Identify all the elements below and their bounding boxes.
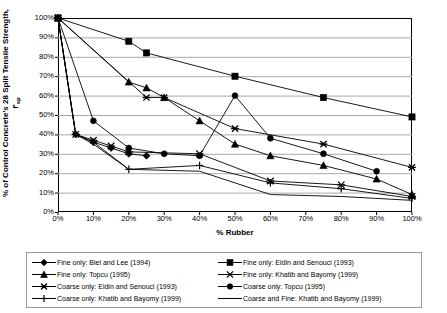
marker-circle [197,153,203,159]
series-1 [55,15,415,120]
legend-marker-triangle-icon [31,269,57,280]
marker-diamond [41,259,48,266]
series-line [58,18,412,196]
x-tick-label: 20% [109,215,149,223]
x-tick-label: 60% [250,215,290,223]
x-axis-label: % Rubber [58,228,412,237]
chart-screenshot: 0%10%20%30%40%50%60%70%80%90%100% 0%10%2… [0,0,447,313]
series-line [58,18,412,198]
marker-triangle [267,152,274,159]
legend-label: Fine only: Eldin and Senouci (1993) [243,258,354,267]
legend-item[interactable]: Coarse and Fine: Khatib and Bayomy (1999… [217,292,417,304]
marker-square [232,73,238,79]
x-tick-label: 0% [38,215,78,223]
chart-area: 0%10%20%30%40%50%60%70%80%90%100% 0%10%2… [0,0,447,248]
marker-triangle [196,117,203,124]
legend-marker-x-bar-icon [217,269,243,280]
marker-circle [161,151,167,157]
legend-item[interactable]: Coarse only: Khatib and Bayomy (1999) [31,292,217,304]
marker-plus-bar [338,185,345,192]
marker-circle [227,283,233,289]
marker-x-bar [226,271,234,277]
series-line [58,18,412,195]
marker-circle [232,93,238,99]
legend-label: Coarse only: Eldin and Senouci (1993) [57,282,177,291]
marker-asterisk [40,283,47,289]
marker-square [143,50,149,56]
marker-circle [126,145,132,151]
x-tick-label: 40% [180,215,220,223]
legend-label: Coarse and Fine: Khatib and Bayomy (1999… [243,294,382,303]
marker-asterisk [320,141,328,147]
series-line [58,18,377,171]
marker-plus-bar [196,162,203,169]
marker-diamond [143,152,150,159]
marker-circle [321,151,327,157]
marker-triangle [231,140,238,147]
series-line [58,18,412,117]
chart-legend: Fine only: Biel and Lee (1994)Fine only:… [26,252,422,308]
data-series-layer [58,18,412,212]
legend-marker-none-icon [217,293,243,304]
marker-asterisk [231,125,239,131]
x-tick-label: 80% [321,215,361,223]
legend-label: Fine only: Topcu (1995) [57,270,130,279]
legend-item[interactable]: Fine only: Eldin and Senouci (1993) [217,256,417,268]
x-tick-label: 100% [392,215,432,223]
series-7 [58,18,412,200]
marker-square [409,114,415,120]
legend-marker-asterisk-icon [31,281,57,292]
series-line [58,18,412,200]
series-3 [54,15,416,200]
legend-item[interactable]: Coarse only: Topcu (1995) [217,280,417,292]
legend-item[interactable]: Fine only: Topcu (1995) [31,268,217,280]
marker-triangle [143,84,150,91]
x-tick-label: 50% [215,215,255,223]
legend-item[interactable]: Fine only: Biel and Lee (1994) [31,256,217,268]
x-tick-label: 70% [286,215,326,223]
legend-item[interactable]: Fine only: Khatib and Bayomy (1999) [217,268,417,280]
x-tick-label: 30% [144,215,184,223]
legend-label: Fine only: Khatib and Bayomy (1999) [243,270,358,279]
legend-marker-plus-bar-icon [31,293,57,304]
marker-square [227,259,233,265]
y-axis-label: % of Control Concrete's 28 Split Tensile… [1,3,23,203]
marker-circle [374,168,380,174]
marker-plus-bar [40,294,47,301]
legend-marker-circle-icon [217,281,243,292]
series-6 [54,14,415,202]
legend-label: Coarse only: Topcu (1995) [243,282,325,291]
marker-asterisk [408,164,416,170]
marker-square [320,94,326,100]
x-tick-label: 10% [73,215,113,223]
x-tick-label: 90% [357,215,397,223]
marker-asterisk [143,94,151,100]
series-line [58,18,147,156]
legend-marker-square-icon [217,257,243,268]
legend-marker-diamond-icon [31,257,57,268]
legend-item[interactable]: Coarse only: Eldin and Senouci (1993) [31,280,217,292]
marker-circle [267,135,273,141]
marker-circle [90,118,96,124]
legend-label: Coarse only: Khatib and Bayomy (1999) [57,294,181,303]
legend-label: Fine only: Biel and Lee (1994) [57,258,150,267]
marker-square [126,38,132,44]
legend-grid: Fine only: Biel and Lee (1994)Fine only:… [31,256,417,304]
